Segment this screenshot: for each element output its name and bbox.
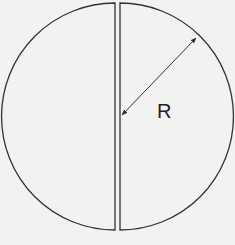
split-circle-diagram: R [0, 0, 235, 245]
diagram-canvas: R [0, 0, 235, 245]
radius-label: R [157, 100, 171, 122]
right-half-disk [120, 3, 233, 230]
left-half-disk [2, 3, 115, 230]
